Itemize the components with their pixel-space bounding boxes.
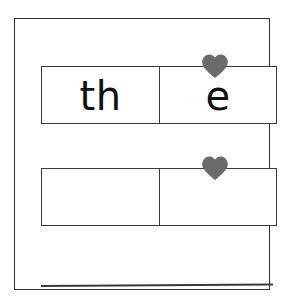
writing-line[interactable] bbox=[41, 284, 273, 287]
word-row: th e bbox=[41, 66, 277, 124]
heart-icon bbox=[201, 155, 229, 181]
word-cell-text: e bbox=[205, 76, 230, 116]
word-cell-text: th bbox=[79, 76, 121, 116]
word-cell-right[interactable] bbox=[159, 169, 276, 225]
word-cell-left[interactable] bbox=[42, 169, 159, 225]
word-cell-left[interactable]: th bbox=[42, 67, 159, 123]
word-row bbox=[41, 168, 277, 226]
outer-frame: th e bbox=[14, 18, 270, 290]
word-cell-right[interactable]: e bbox=[159, 67, 276, 123]
worksheet-page: th e bbox=[0, 0, 287, 302]
